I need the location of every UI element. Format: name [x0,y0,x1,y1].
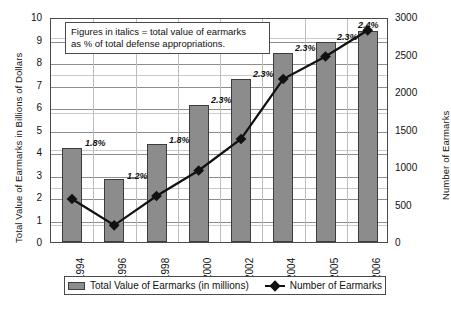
y-right-tick-0: 0 [395,238,417,248]
data-label-1996: 1.2% [127,171,148,181]
data-label-2004: 2.3% [295,43,316,53]
marker-2005 [320,51,331,62]
data-label-1994: 1.8% [85,138,106,148]
y-left-tick-5: 5 [20,126,42,136]
data-label-2005: 2.3% [337,32,358,42]
chart-legend: Total Value of Earmarks (in millions) Nu… [64,276,386,295]
legend-label-total-value: Total Value of Earmarks (in millions) [90,280,249,291]
y-right-tick-1500: 1500 [395,126,417,136]
italics-note-line-1: Figures in italics = total value of earm… [71,26,264,38]
legend-entry-number-of-earmarks: Number of Earmarks [265,280,382,291]
data-label-2002: 2.3% [253,69,274,79]
y-left-tick-1: 1 [20,216,42,226]
data-label-2000: 2.3% [211,95,232,105]
y-left-tick-8: 8 [20,58,42,68]
y-right-tick-3000: 3000 [395,13,417,23]
bar-swatch-icon [68,282,85,290]
y-left-tick-7: 7 [20,81,42,91]
data-label-2006: 2.4% [358,20,379,30]
y-left-tick-4: 4 [20,148,42,158]
data-label-1998: 1.8% [169,135,190,145]
legend-label-number-of-earmarks: Number of Earmarks [290,280,382,291]
line-diamond-marker-icon [265,282,285,290]
y-left-tick-3: 3 [20,171,42,181]
y-left-tick-9: 9 [20,36,42,46]
y-left-tick-0: 0 [20,238,42,248]
y-left-tick-6: 6 [20,103,42,113]
italics-note-callout: Figures in italics = total value of earm… [65,22,270,54]
legend-entry-total-value: Total Value of Earmarks (in millions) [68,280,249,291]
y-right-tick-2500: 2500 [395,51,417,61]
y-right-tick-500: 500 [395,201,417,211]
marker-1994 [67,194,78,205]
y-right-tick-2000: 2000 [395,88,417,98]
italics-note-line-2: as % of total defense appropriations. [71,38,264,50]
y-left-tick-2: 2 [20,193,42,203]
y-left-tick-10: 10 [20,13,42,23]
y-axis-right-title: Number of Earmarks [440,111,451,200]
y-right-tick-1000: 1000 [395,163,417,173]
